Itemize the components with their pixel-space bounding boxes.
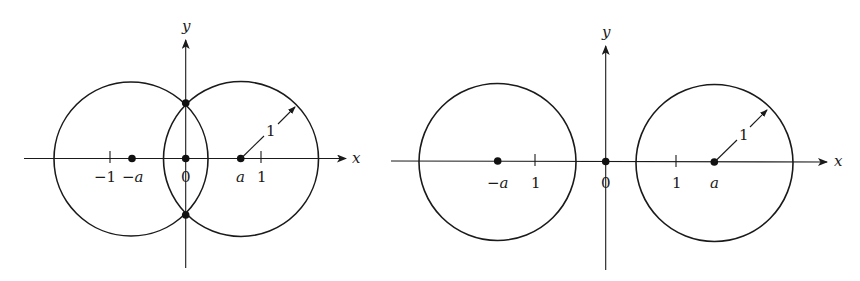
label-neg-one: −1 [94,168,116,186]
y-axis-label: y [601,23,611,41]
point-neg-a [494,157,502,165]
label-zero: 0 [181,168,191,186]
label-one: 1 [257,168,267,186]
radius-label: 1 [739,126,749,144]
radius-label: 1 [266,122,276,140]
label-neg-a: −a [487,174,509,192]
figure-overlapping-circles: x y 1 −1 −a 0 a 1 [24,17,361,268]
y-axis-label: y [181,17,191,35]
point-origin [182,155,190,163]
label-one-left: 1 [531,174,541,192]
label-zero: 0 [601,174,611,192]
x-axis-label: x [834,152,843,170]
radius-line [715,140,738,162]
point-intersection-top [182,99,190,107]
x-axis-label: x [352,149,361,167]
point-origin [602,158,610,166]
diagram-canvas: x y 1 −1 −a 0 a 1 x y [0,0,860,281]
label-one-right: 1 [672,174,682,192]
figure-separated-circles: x y 1 −a 1 0 1 a [391,23,843,270]
radius-arrow [750,110,767,127]
point-intersection-bottom [182,211,190,219]
label-neg-a: −a [122,168,144,186]
point-neg-a [128,155,136,163]
label-a: a [236,168,245,186]
radius-arrow [278,107,295,124]
label-a: a [710,174,719,192]
